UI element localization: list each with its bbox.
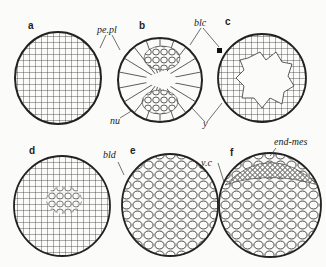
annotation-y-c: y.c xyxy=(201,158,212,168)
annotation-blc: blc xyxy=(194,18,206,28)
cell-drawings xyxy=(0,0,326,267)
panel-f-drawing xyxy=(219,153,321,257)
panel-b-drawing xyxy=(118,38,202,122)
panel-e-drawing xyxy=(122,154,218,256)
panel-c-drawing xyxy=(217,34,306,122)
panel-label-d: d xyxy=(29,146,35,156)
panel-a-drawing xyxy=(15,32,101,124)
annotation-y: y xyxy=(203,119,207,129)
annotation-nu: nu xyxy=(110,116,120,126)
annotation-bld: bld xyxy=(103,150,116,160)
panel-label-b: b xyxy=(139,21,145,31)
embryo-diagram-figure: a b c d e f pe.pl blc nu y bld y.c end-m… xyxy=(0,0,326,267)
panel-d-drawing xyxy=(14,156,110,256)
annotation-end-mes: end-mes xyxy=(274,137,307,147)
panel-label-a: a xyxy=(28,21,34,31)
annotation-pe-pl: pe.pl xyxy=(97,25,117,35)
panel-label-f: f xyxy=(230,148,233,158)
panel-label-e: e xyxy=(130,146,136,156)
panel-label-c: c xyxy=(225,17,231,27)
